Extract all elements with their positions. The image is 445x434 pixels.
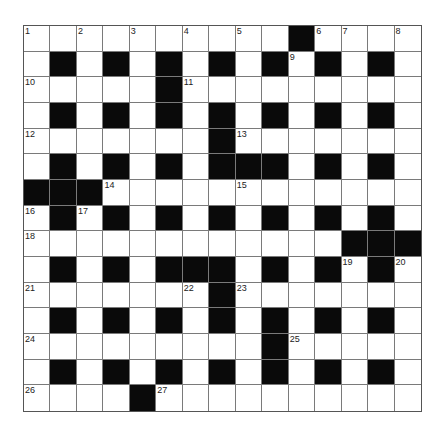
grid-cell[interactable] [395,385,421,411]
grid-cell[interactable] [342,154,368,180]
grid-cell[interactable]: 2 [77,26,103,52]
grid-cell[interactable]: 19 [342,257,368,283]
grid-cell[interactable] [77,231,103,257]
grid-cell[interactable] [315,180,341,206]
grid-cell[interactable] [183,308,209,334]
grid-cell[interactable] [183,180,209,206]
grid-cell[interactable] [77,283,103,309]
grid-cell[interactable] [130,334,156,360]
grid-cell[interactable] [130,129,156,155]
grid-cell[interactable] [395,52,421,78]
grid-cell[interactable] [289,77,315,103]
grid-cell[interactable] [183,129,209,155]
grid-cell[interactable] [183,206,209,232]
grid-cell[interactable] [289,308,315,334]
grid-cell[interactable] [130,180,156,206]
grid-cell[interactable]: 21 [24,283,50,309]
grid-cell[interactable] [77,257,103,283]
grid-cell[interactable] [236,360,262,386]
grid-cell[interactable] [156,334,182,360]
grid-cell[interactable]: 8 [395,26,421,52]
grid-cell[interactable] [289,385,315,411]
grid-cell[interactable]: 13 [236,129,262,155]
grid-cell[interactable] [103,129,129,155]
grid-cell[interactable] [236,257,262,283]
grid-cell[interactable] [368,26,394,52]
grid-cell[interactable] [24,52,50,78]
grid-cell[interactable] [130,360,156,386]
grid-cell[interactable] [50,129,76,155]
grid-cell[interactable] [130,257,156,283]
grid-cell[interactable] [103,77,129,103]
grid-cell[interactable] [50,334,76,360]
grid-cell[interactable] [289,283,315,309]
grid-cell[interactable] [342,283,368,309]
grid-cell[interactable] [342,206,368,232]
grid-cell[interactable] [183,231,209,257]
grid-cell[interactable] [156,26,182,52]
grid-cell[interactable]: 12 [24,129,50,155]
grid-cell[interactable] [156,129,182,155]
grid-cell[interactable] [183,52,209,78]
grid-cell[interactable] [342,334,368,360]
grid-cell[interactable]: 25 [289,334,315,360]
grid-cell[interactable] [395,334,421,360]
grid-cell[interactable] [236,334,262,360]
grid-cell[interactable] [77,103,103,129]
grid-cell[interactable] [289,103,315,129]
grid-cell[interactable]: 17 [77,206,103,232]
grid-cell[interactable] [103,26,129,52]
grid-cell[interactable]: 16 [24,206,50,232]
grid-cell[interactable] [395,206,421,232]
grid-cell[interactable] [130,154,156,180]
grid-cell[interactable] [289,257,315,283]
grid-cell[interactable] [315,231,341,257]
grid-cell[interactable] [209,26,235,52]
grid-cell[interactable] [103,334,129,360]
grid-cell[interactable] [183,103,209,129]
grid-cell[interactable] [77,385,103,411]
grid-cell[interactable] [103,385,129,411]
grid-cell[interactable]: 20 [395,257,421,283]
grid-cell[interactable]: 26 [24,385,50,411]
grid-cell[interactable] [183,334,209,360]
grid-cell[interactable]: 14 [103,180,129,206]
grid-cell[interactable] [209,334,235,360]
grid-cell[interactable] [50,231,76,257]
grid-cell[interactable] [236,231,262,257]
grid-cell[interactable] [236,77,262,103]
grid-cell[interactable] [368,283,394,309]
grid-cell[interactable]: 22 [183,283,209,309]
grid-cell[interactable] [77,154,103,180]
grid-cell[interactable]: 11 [183,77,209,103]
grid-cell[interactable] [315,334,341,360]
grid-cell[interactable] [50,77,76,103]
grid-cell[interactable] [209,180,235,206]
grid-cell[interactable] [289,180,315,206]
grid-cell[interactable]: 10 [24,77,50,103]
grid-cell[interactable] [289,129,315,155]
grid-cell[interactable] [289,154,315,180]
grid-cell[interactable]: 23 [236,283,262,309]
grid-cell[interactable] [262,77,288,103]
grid-cell[interactable] [368,77,394,103]
grid-cell[interactable] [130,77,156,103]
grid-cell[interactable] [77,360,103,386]
grid-cell[interactable]: 15 [236,180,262,206]
grid-cell[interactable] [236,52,262,78]
grid-cell[interactable] [77,52,103,78]
grid-cell[interactable] [103,283,129,309]
grid-cell[interactable] [395,283,421,309]
grid-cell[interactable] [342,103,368,129]
grid-cell[interactable] [156,180,182,206]
grid-cell[interactable] [262,385,288,411]
grid-cell[interactable]: 3 [130,26,156,52]
grid-cell[interactable] [262,180,288,206]
grid-cell[interactable] [342,308,368,334]
grid-cell[interactable] [24,154,50,180]
grid-cell[interactable] [50,385,76,411]
grid-cell[interactable] [209,77,235,103]
grid-cell[interactable] [24,360,50,386]
grid-cell[interactable] [209,385,235,411]
grid-cell[interactable] [130,103,156,129]
